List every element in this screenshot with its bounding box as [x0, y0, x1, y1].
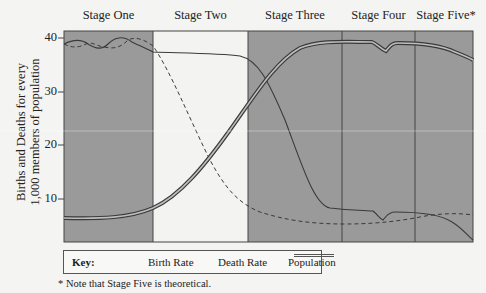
- legend-death-rate: Death Rate: [218, 256, 267, 268]
- legend-population: Population: [288, 256, 336, 268]
- legend-birth-rate: Birth Rate: [148, 256, 194, 268]
- footnote: * Note that Stage Five is theoretical.: [58, 278, 211, 289]
- stage-one-region: [64, 31, 153, 242]
- legend: Key: Birth Rate Death Rate Population: [63, 250, 322, 274]
- stage-two-region: [153, 31, 248, 242]
- legend-title: Key:: [72, 256, 95, 268]
- stage-three-region: [248, 31, 342, 242]
- stage-five-region: [415, 31, 473, 242]
